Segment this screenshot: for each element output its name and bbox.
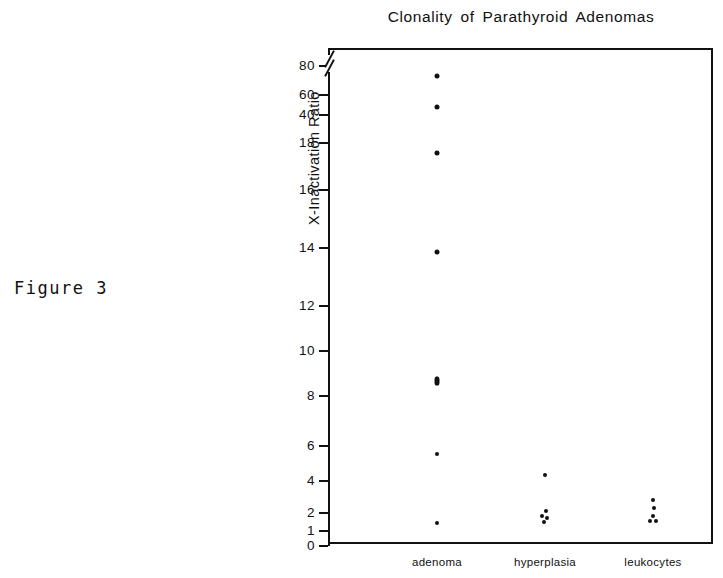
data-point-leukocytes (652, 506, 656, 510)
x-category-label-adenoma: adenoma (412, 556, 462, 568)
data-point-leukocytes (648, 519, 652, 523)
y-tick-label: 2 (307, 505, 315, 520)
chart-title: Clonality of Parathyroid Adenomas (328, 8, 714, 26)
y-tick-label: 40 (299, 107, 315, 122)
y-tick-label: 12 (299, 298, 315, 313)
y-tick-label: 10 (299, 343, 315, 358)
y-tick-label: 4 (307, 473, 315, 488)
x-category-label-leukocytes: leukocytes (624, 556, 681, 568)
axis-break-icon (318, 50, 340, 76)
data-point-hyperplasia (542, 520, 546, 524)
y-tick: 14 (319, 247, 328, 249)
data-point-leukocytes (654, 519, 658, 523)
data-point-adenoma (435, 151, 440, 156)
data-point-adenoma (435, 452, 439, 456)
figure-caption: Figure 3 (14, 278, 108, 298)
y-tick-label: 0 (307, 538, 315, 553)
y-tick: 40 (319, 114, 328, 116)
y-tick: 16 (319, 189, 328, 191)
y-tick-label: 80 (299, 58, 315, 73)
data-point-hyperplasia (540, 514, 544, 518)
data-point-adenoma (435, 250, 440, 255)
y-tick: 6 (319, 445, 328, 447)
y-tick: 2 (319, 512, 328, 514)
data-point-hyperplasia (545, 516, 549, 520)
data-point-leukocytes (651, 514, 655, 518)
y-tick-label: 14 (299, 240, 315, 255)
y-tick: 8 (319, 395, 328, 397)
y-tick-label: 18 (299, 135, 315, 150)
y-tick-label: 60 (299, 87, 315, 102)
data-point-leukocytes (651, 498, 655, 502)
data-point-hyperplasia (543, 473, 547, 477)
data-point-adenoma (435, 377, 440, 386)
y-tick-label: 1 (307, 523, 315, 538)
y-tick-label: 8 (307, 388, 315, 403)
x-category-label-hyperplasia: hyperplasia (514, 556, 576, 568)
data-point-adenoma (435, 74, 440, 79)
y-tick: 12 (319, 305, 328, 307)
y-tick: 18 (319, 142, 328, 144)
data-point-adenoma (435, 521, 439, 525)
plot-area: X-Inactivation Ratio 8060401816141210864… (328, 48, 713, 544)
y-tick-label: 16 (299, 182, 315, 197)
y-tick: 10 (319, 350, 328, 352)
data-point-hyperplasia (544, 509, 548, 513)
y-tick-label: 6 (307, 438, 315, 453)
y-tick: 1 (319, 530, 328, 532)
y-tick: 0 (319, 545, 328, 547)
data-point-adenoma (435, 105, 440, 110)
y-tick: 4 (319, 480, 328, 482)
y-tick: 60 (319, 94, 328, 96)
